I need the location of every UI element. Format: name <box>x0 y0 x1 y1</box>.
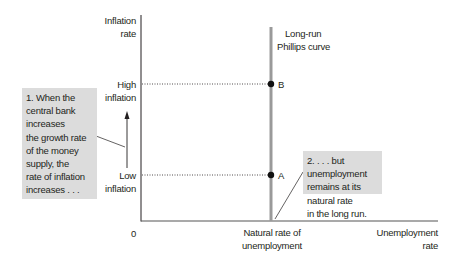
high-inflation-label: High inflation <box>92 78 136 104</box>
origin-label: 0 <box>131 227 136 240</box>
right-callout-box: 2. . . . but unemployment remains at its… <box>303 151 382 194</box>
curve-label: Long-run Phillips curve <box>277 27 330 53</box>
left-callout-leader <box>96 136 125 147</box>
low-inflation-label: Low inflation <box>92 169 136 195</box>
point-a <box>268 172 274 178</box>
left-callout-box: 1. When the central bank increases the g… <box>22 88 97 199</box>
point-b <box>268 81 274 87</box>
arrow-head-icon <box>125 111 130 119</box>
point-a-label: A <box>278 169 284 182</box>
x-axis-label: Unemployment rate <box>370 226 438 252</box>
point-b-label: B <box>278 78 284 91</box>
natural-rate-label: Natural rate of unemployment <box>236 226 308 252</box>
y-axis-label: Inflation rate <box>100 14 136 40</box>
